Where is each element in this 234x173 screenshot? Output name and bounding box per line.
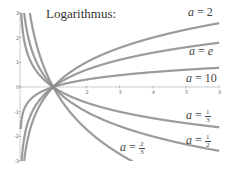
label-val: 10 — [205, 71, 217, 85]
numerator: 2 — [140, 141, 144, 148]
y-tick-label: 2 — [16, 35, 19, 41]
label-a-10: a = 10 — [186, 71, 217, 86]
denominator: 3 — [140, 149, 144, 156]
label-val: e — [208, 44, 213, 58]
x-tick-label: 3 — [119, 89, 122, 95]
label-var: a — [189, 44, 195, 58]
label-a-2: a = 2 — [188, 5, 213, 20]
label-eq: = — [197, 5, 204, 19]
label-var: a — [186, 133, 192, 147]
y-tick-label: -1 — [14, 109, 19, 115]
label-a-e: a = e — [189, 44, 213, 59]
numerator: 1 — [206, 109, 210, 116]
chart-container: Logarithmus: a = 2 a = e a = 10 a = 1 3 … — [0, 0, 234, 173]
y-tick-label: 1 — [16, 59, 19, 65]
y-tick-label: -2 — [14, 133, 19, 139]
x-tick-label: 6 — [218, 89, 221, 95]
label-var: a — [120, 140, 126, 154]
label-var: a — [188, 5, 194, 19]
label-eq: = — [195, 71, 202, 85]
fraction: 1 3 — [205, 109, 211, 124]
denominator: 3 — [206, 117, 210, 124]
y-tick-label: 0 — [16, 84, 19, 90]
y-tick-label: 3 — [16, 10, 19, 16]
label-var: a — [186, 71, 192, 85]
label-a-2-3: a = 2 3 — [120, 140, 145, 156]
fraction: 2 3 — [139, 141, 145, 156]
fraction: 1 2 — [205, 134, 211, 149]
chart-title: Logarithmus: — [46, 6, 116, 22]
numerator: 1 — [206, 134, 210, 141]
denominator: 2 — [206, 142, 210, 149]
label-var: a — [186, 108, 192, 122]
x-tick-label: 4 — [152, 89, 155, 95]
label-eq: = — [195, 133, 202, 147]
x-tick-label: 5 — [185, 89, 188, 95]
y-tick-label: -3 — [14, 158, 19, 164]
label-val: 2 — [207, 5, 213, 19]
label-a-1-2: a = 1 2 — [186, 133, 211, 149]
x-tick-label: 2 — [85, 89, 88, 95]
label-eq: = — [195, 108, 202, 122]
label-eq: = — [129, 140, 136, 154]
label-eq: = — [198, 44, 205, 58]
label-a-1-3: a = 1 3 — [186, 108, 211, 124]
